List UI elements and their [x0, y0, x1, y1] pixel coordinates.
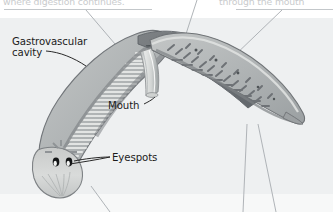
label-gastrovascular-line1: Gastrovascular	[12, 36, 87, 47]
figure-canvas: where digestion continues. through the m…	[0, 0, 333, 212]
eyespot-right-highlight	[67, 161, 70, 166]
label-gastrovascular-line2: cavity	[12, 47, 87, 58]
label-mouth: Mouth	[108, 100, 139, 111]
flatworm-anatomy-svg	[0, 0, 333, 212]
label-gastrovascular-cavity: Gastrovascular cavity	[12, 36, 87, 59]
figure-bottom-band	[0, 194, 333, 212]
caption-left-text: where digestion continues.	[3, 0, 125, 7]
eyespot-left-highlight	[54, 161, 57, 166]
mouth-opening	[146, 93, 158, 98]
caption-right-text: through the mouth	[219, 0, 304, 7]
label-eyespots: Eyespots	[112, 152, 157, 163]
